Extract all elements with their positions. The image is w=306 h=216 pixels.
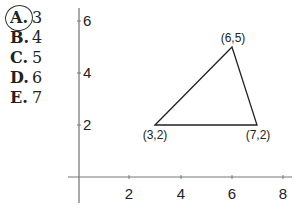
y-tick-label: 4 [83, 64, 91, 81]
x-tick-label: 4 [177, 185, 185, 202]
triangle [155, 47, 257, 125]
y-tick-label: 6 [83, 12, 91, 29]
vertex-label: (7,2) [246, 128, 271, 142]
x-tick-label: 2 [125, 185, 133, 202]
vertex-label: (3,2) [143, 128, 168, 142]
vertex-label: (6,5) [221, 31, 246, 45]
coordinate-graph: 2 4 6 8 2 4 6 (3,2) (6,5) (7,2) [0, 0, 306, 216]
x-tick-label: 6 [228, 185, 236, 202]
y-tick-label: 2 [83, 116, 91, 133]
x-tick-label: 8 [279, 185, 287, 202]
x-ticks: 2 4 6 8 [125, 175, 287, 202]
